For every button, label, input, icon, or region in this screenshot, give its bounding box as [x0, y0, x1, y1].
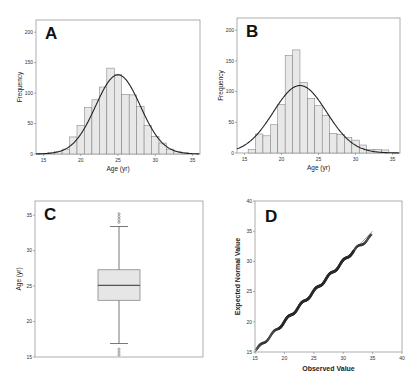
outlier-point: [118, 221, 120, 223]
histogram-bar: [122, 94, 129, 154]
x-tick-label: 30: [340, 355, 346, 361]
histogram-bar: [322, 116, 329, 153]
histogram-bar: [92, 100, 99, 154]
histogram-bar: [99, 87, 106, 154]
x-tick-label: 40: [399, 355, 405, 361]
x-tick-label: 20: [279, 156, 285, 162]
histogram-bar: [278, 105, 285, 153]
x-tick-label: 15: [242, 156, 248, 162]
y-tick-label: 0: [231, 150, 234, 156]
histogram-bar: [107, 68, 114, 154]
x-axis-label: Age (yr): [307, 164, 330, 172]
histogram-bar: [263, 136, 270, 153]
x-tick-label: 25: [316, 156, 322, 162]
y-tick-label: 30: [246, 258, 252, 264]
histogram-bar: [248, 149, 255, 153]
outlier-point: [118, 216, 120, 218]
histogram-bar: [137, 106, 144, 154]
x-tick-label: 35: [370, 355, 376, 361]
y-tick-label: 35: [26, 212, 32, 218]
y-axis-label: Frequency: [217, 69, 225, 100]
y-tick-label: 25: [26, 283, 32, 289]
histogram-panel-a: 0501001502001520253035Age (yr)FrequencyA: [16, 20, 200, 173]
y-tick-label: 15: [246, 349, 252, 355]
histogram-bar: [330, 133, 337, 153]
histogram-bar: [270, 125, 277, 153]
histogram-bar: [152, 136, 159, 154]
histogram-bar: [300, 82, 307, 153]
x-tick-label: 25: [311, 355, 317, 361]
y-tick-label: 30: [26, 247, 32, 253]
histogram-bar: [285, 55, 292, 153]
x-tick-label: 35: [390, 156, 396, 162]
qq-plot-panel-d: 152025303540152025303540Observed ValueEx…: [234, 198, 405, 372]
figure: 0501001502001520253035Age (yr)FrequencyA…: [0, 0, 420, 385]
y-axis-label: Age (yr): [15, 267, 23, 290]
x-tick-label: 20: [282, 355, 288, 361]
y-tick-label: 150: [25, 59, 34, 65]
histogram-bar: [307, 98, 314, 153]
histogram-bar: [129, 95, 136, 154]
y-tick-label: 100: [226, 88, 235, 94]
histogram-panel-b: 0501001502001520253035Age (yr)FrequencyB: [217, 18, 400, 172]
y-tick-label: 200: [226, 27, 235, 33]
y-tick-label: 15: [26, 354, 32, 360]
panel-label: A: [45, 24, 57, 43]
x-tick-label: 30: [152, 157, 158, 163]
x-tick-label: 35: [190, 157, 196, 163]
x-axis-label: Age (yr): [106, 165, 129, 173]
histogram-bar: [315, 106, 322, 153]
y-tick-label: 100: [25, 90, 34, 96]
y-tick-label: 35: [246, 228, 252, 234]
y-axis-label: Frequency: [16, 71, 24, 102]
y-tick-label: 25: [246, 288, 252, 294]
outlier-point: [118, 348, 120, 350]
y-tick-label: 0: [30, 151, 33, 157]
x-tick-label: 30: [353, 156, 359, 162]
x-tick-label: 20: [78, 157, 84, 163]
histogram-bar: [84, 108, 91, 154]
x-tick-label: 15: [41, 157, 47, 163]
y-axis-label: Expected Normal Value: [234, 238, 242, 316]
y-tick-label: 200: [25, 29, 34, 35]
y-tick-label: 50: [228, 119, 234, 125]
y-tick-label: 20: [246, 319, 252, 325]
y-tick-label: 40: [246, 198, 252, 204]
x-tick-label: 25: [115, 157, 121, 163]
histogram-bar: [159, 143, 166, 154]
y-tick-label: 150: [226, 58, 235, 64]
y-tick-label: 50: [27, 120, 33, 126]
outlier-point: [118, 218, 120, 220]
y-tick-label: 20: [26, 318, 32, 324]
outlier-point: [118, 354, 120, 356]
histogram-bar: [144, 125, 151, 154]
histogram-bar: [114, 74, 121, 154]
panel-label: D: [265, 207, 277, 226]
outlier-point: [118, 213, 120, 215]
x-axis-label: Observed Value: [302, 365, 355, 372]
panel-label: B: [246, 22, 258, 41]
x-tick-label: 15: [252, 355, 258, 361]
boxplot-panel-c: 1520253035Age (yr)C: [15, 201, 203, 360]
outlier-point: [118, 351, 120, 353]
histogram-bar: [256, 134, 263, 153]
histogram-bar: [337, 135, 344, 153]
panel-label: C: [44, 205, 56, 224]
histogram-bar: [293, 50, 300, 153]
